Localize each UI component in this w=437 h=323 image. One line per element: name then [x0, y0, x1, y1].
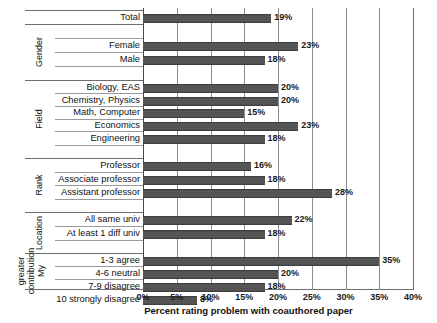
bar: [143, 270, 278, 279]
separator-line: [55, 172, 143, 173]
group-label-text: Field: [34, 109, 44, 129]
gridline-40: [413, 8, 414, 290]
separator-line: [55, 199, 143, 200]
gridline-30: [346, 8, 347, 290]
separator-line: [55, 131, 143, 132]
bar: [143, 162, 251, 171]
bar: [143, 109, 244, 118]
bar: [143, 122, 298, 131]
bar: [143, 189, 332, 198]
group-label-gender: Gender: [26, 24, 52, 80]
bar-value-label: 22%: [295, 215, 313, 224]
gridline-25: [312, 8, 313, 290]
x-tick-label: 10%: [201, 292, 219, 302]
x-axis-title-text: Percent rating problem with coauthored p…: [84, 305, 353, 316]
bar-value-label: 20%: [281, 83, 299, 92]
separator-line: [55, 119, 143, 120]
x-axis-ticks: 0%5%10%15%20%25%30%35%40%: [143, 290, 413, 306]
separator-line: [55, 279, 143, 280]
group-label-line: My: [36, 265, 46, 277]
bar: [143, 97, 278, 106]
bar-value-label: 23%: [301, 121, 319, 130]
bar-value-label: 15%: [247, 108, 265, 117]
separator-line: [55, 52, 143, 53]
separator-line: [55, 93, 143, 94]
x-tick-label: 40%: [404, 292, 422, 302]
group-label-field: Field: [26, 80, 52, 158]
bar-value-label: 18%: [268, 55, 286, 64]
x-tick-label: 15%: [235, 292, 253, 302]
group-label-line: contribution: [26, 248, 36, 295]
separator-line: [55, 240, 143, 241]
separator-line: [25, 10, 143, 11]
bar: [143, 84, 278, 93]
category-label: Total: [30, 12, 143, 23]
bar: [143, 230, 265, 239]
plot-area: 19%23%18%20%20%15%23%18%16%18%28%22%18%3…: [143, 8, 413, 290]
group-label-rank: Rank: [26, 158, 52, 212]
x-axis-title: Percent rating problem with coauthored p…: [0, 305, 437, 316]
group-label-text: Rank: [34, 174, 44, 195]
gridline-35: [379, 8, 380, 290]
group-label-text: Location: [34, 215, 44, 249]
bar-value-label: 18%: [268, 134, 286, 143]
separator-line: [55, 66, 143, 67]
bar: [143, 135, 265, 144]
x-tick-label: 30%: [336, 292, 354, 302]
bar: [143, 56, 265, 65]
bar-value-label: 35%: [382, 256, 400, 265]
bar-value-label: 28%: [335, 188, 353, 197]
separator-line: [55, 106, 143, 107]
group-label-mycontribution: Mycontributiongreater: [14, 253, 48, 289]
separator-line: [55, 226, 143, 227]
x-tick-label: 35%: [370, 292, 388, 302]
bar: [143, 176, 265, 185]
bar-value-label: 18%: [268, 229, 286, 238]
x-tick-label: 20%: [269, 292, 287, 302]
separator-line: [55, 266, 143, 267]
separator-line: [55, 185, 143, 186]
bar: [143, 42, 298, 51]
bar: [143, 257, 379, 266]
x-tick-label: 25%: [303, 292, 321, 302]
bar: [143, 216, 292, 225]
x-tick-label: 5%: [170, 292, 183, 302]
bar-value-label: 18%: [268, 175, 286, 184]
bar-value-label: 19%: [274, 13, 292, 22]
separator-line: [55, 38, 143, 39]
x-tick-label: 0%: [136, 292, 149, 302]
separator-line: [55, 145, 143, 146]
chart-container: TotalFemaleMaleBiology, EASChemistry, Ph…: [0, 0, 437, 323]
category-label: 10 strongly disagree: [30, 294, 143, 305]
bar-value-label: 16%: [254, 161, 272, 170]
bar-value-label: 23%: [301, 41, 319, 50]
category-label-column: TotalFemaleMaleBiology, EASChemistry, Ph…: [0, 0, 143, 290]
bar-value-label: 20%: [281, 269, 299, 278]
group-label-line: greater: [16, 257, 26, 286]
bar-value-label: 20%: [281, 96, 299, 105]
group-label-text: Gender: [34, 37, 44, 67]
bar: [143, 14, 271, 23]
